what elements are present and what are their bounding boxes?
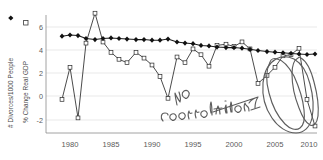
data-point-gdp — [273, 65, 277, 69]
data-point-gdp — [240, 40, 244, 44]
data-point-gdp — [142, 56, 146, 60]
x-tick-2000: 2000 — [226, 140, 243, 149]
data-point-gdp — [256, 82, 260, 86]
data-point-gdp — [60, 98, 64, 102]
data-point-gdp — [150, 63, 154, 67]
data-point-gdp — [207, 64, 211, 68]
data-point-gdp — [68, 65, 72, 69]
data-point-gdp — [199, 53, 203, 57]
y-tick-4: 4 — [39, 46, 43, 55]
x-tick-1980: 1980 — [62, 140, 79, 149]
x-tick-1995: 1995 — [185, 140, 202, 149]
data-point-gdp — [109, 51, 113, 55]
y-tick-6: 6 — [39, 23, 43, 32]
data-point-gdp — [191, 47, 195, 51]
y-tick-2: 2 — [39, 69, 43, 78]
x-tick-1985: 1985 — [103, 140, 120, 149]
y-tick-neg2: -2 — [37, 116, 43, 125]
data-point-gdp — [166, 96, 170, 100]
data-point-gdp — [117, 57, 121, 61]
x-tick-1990: 1990 — [144, 140, 161, 149]
data-point-gdp — [84, 41, 88, 45]
open-square-icon — [24, 21, 28, 25]
axis-label-gdp: % Change Real GDP — [22, 61, 30, 123]
data-point-gdp — [93, 11, 97, 15]
data-point-gdp — [125, 61, 129, 65]
chart-plot: 6 4 2 0 -2 1980 1985 1990 1995 2000 2005… — [0, 0, 323, 160]
x-tick-2005: 2005 — [267, 140, 284, 149]
axis-label-divorces: # Divorces/1000 People — [7, 58, 15, 128]
data-point-gdp — [158, 75, 162, 79]
data-point-gdp — [76, 116, 80, 120]
data-point-gdp — [134, 51, 138, 55]
data-point-gdp — [175, 55, 179, 59]
chart-container: 6 4 2 0 -2 1980 1985 1990 1995 2000 2005… — [0, 0, 323, 160]
data-point-gdp — [305, 98, 309, 102]
data-point-gdp — [183, 61, 187, 65]
data-point-gdp — [297, 46, 301, 50]
y-tick-0: 0 — [39, 92, 43, 101]
x-tick-2010: 2010 — [301, 140, 318, 149]
